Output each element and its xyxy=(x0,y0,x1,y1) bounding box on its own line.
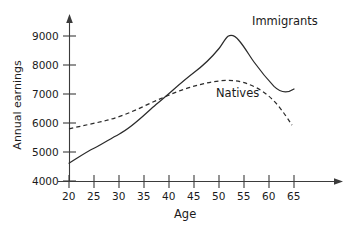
series-line-immigrants xyxy=(69,35,294,163)
y-tick-label-7000: 7000 xyxy=(32,89,59,100)
x-tick-label-55: 55 xyxy=(237,191,250,202)
x-tick-label-20: 20 xyxy=(62,191,75,202)
x-tick-label-60: 60 xyxy=(262,191,275,202)
y-tick-label-4000: 4000 xyxy=(32,176,59,187)
y-tick-label-6000: 6000 xyxy=(32,118,59,129)
series-label-immigrants: Immigrants xyxy=(252,16,318,28)
y-tick-label-5000: 5000 xyxy=(32,147,59,158)
x-tick-label-50: 50 xyxy=(212,191,225,202)
x-tick-label-40: 40 xyxy=(162,191,175,202)
y-tick-label-9000: 9000 xyxy=(32,31,59,42)
x-tick-label-65: 65 xyxy=(287,191,300,202)
x-tick-label-35: 35 xyxy=(137,191,150,202)
y-tick-label-8000: 8000 xyxy=(32,60,59,71)
x-axis-arrowhead xyxy=(334,178,343,185)
chart-figure: 9000 8000 7000 6000 5000 4000 20 25 30 3… xyxy=(0,0,357,230)
y-axis-title: Annual earnings xyxy=(11,60,24,150)
x-axis xyxy=(58,175,343,188)
y-axis-arrowhead xyxy=(66,14,73,23)
series-label-natives: Natives xyxy=(216,88,259,100)
y-axis xyxy=(63,14,76,182)
x-tick-label-25: 25 xyxy=(87,191,100,202)
x-axis-title: Age xyxy=(174,209,196,221)
x-tick-label-45: 45 xyxy=(187,191,200,202)
y-axis-title-wrap: Annual earnings xyxy=(6,40,28,170)
x-tick-label-30: 30 xyxy=(112,191,125,202)
